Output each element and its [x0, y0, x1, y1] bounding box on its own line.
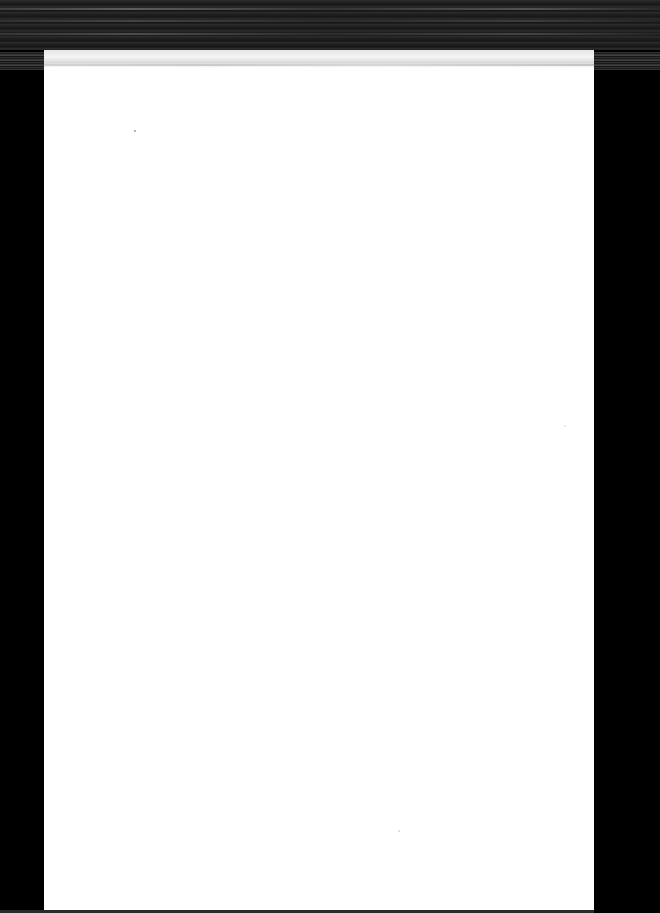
scanned-document: [0, 0, 660, 913]
scanner-bed-right: [594, 50, 660, 913]
scan-streak: [0, 33, 660, 35]
dust-speck: [564, 425, 566, 427]
scanner-bed-left: [0, 50, 44, 913]
scan-streak: [0, 20, 660, 22]
page-fold-line: [44, 64, 594, 66]
dust-speck: [398, 830, 400, 832]
edge-flare: [594, 52, 660, 70]
blank-page: [44, 50, 594, 910]
scan-streak: [0, 8, 660, 10]
edge-flare: [0, 52, 44, 70]
dust-speck: [134, 130, 136, 132]
scanner-noise-band: [0, 0, 660, 50]
